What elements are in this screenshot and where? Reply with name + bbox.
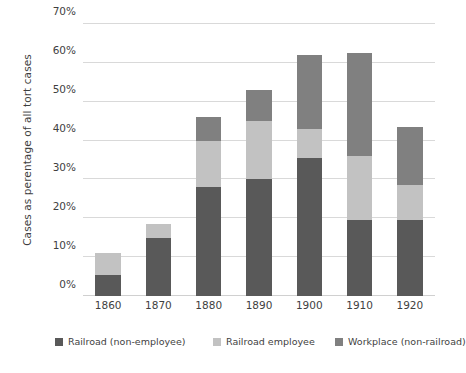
x-axis-tick-label: 1860 [95, 299, 122, 311]
legend-swatch-icon [213, 338, 221, 346]
bar-segment[interactable] [246, 90, 271, 121]
bar-segment[interactable] [347, 156, 372, 220]
bar-segment[interactable] [246, 179, 271, 296]
bar-segment[interactable] [146, 224, 171, 238]
bar-segment[interactable] [297, 129, 322, 158]
bar-segment[interactable] [146, 238, 171, 296]
chart-legend: Railroad (non-employee)Railroad employee… [55, 337, 435, 353]
y-axis-tick-label: 50% [53, 83, 76, 95]
bar-segment[interactable] [95, 275, 120, 296]
bar-segment[interactable] [297, 158, 322, 296]
bar-segment[interactable] [297, 55, 322, 129]
bar-stack[interactable] [146, 224, 171, 296]
legend-swatch-icon [55, 338, 63, 346]
bar-segment[interactable] [196, 117, 221, 140]
bar-group[interactable] [95, 24, 120, 296]
x-axis-tick-labels: 1860187018801890190019101920 [83, 299, 435, 317]
bar-segment[interactable] [246, 121, 271, 179]
y-axis-tick-label: 30% [53, 161, 76, 173]
legend-item[interactable]: Railroad employee [213, 337, 315, 347]
bar-segment[interactable] [196, 141, 221, 188]
bar-stack[interactable] [95, 252, 120, 296]
x-axis-tick-label: 1910 [346, 299, 373, 311]
bar-segment[interactable] [196, 187, 221, 296]
x-axis-tick-label: 1920 [396, 299, 423, 311]
y-axis-title-text: Cases as perentage of all tort cases [21, 54, 33, 246]
bar-segment[interactable] [95, 253, 120, 275]
x-axis-tick-label: 1870 [145, 299, 172, 311]
bar-group[interactable] [397, 24, 422, 296]
legend-item[interactable]: Railroad (non-employee) [55, 337, 185, 347]
bar-segment[interactable] [347, 53, 372, 156]
y-axis-tick-label: 20% [53, 200, 76, 212]
y-axis-tick-label: 10% [53, 239, 76, 251]
y-axis-tick-label: 0% [59, 278, 76, 290]
bar-segment[interactable] [397, 185, 422, 220]
legend-label: Railroad employee [226, 337, 315, 347]
bars-layer [83, 24, 435, 296]
legend-swatch-icon [335, 338, 343, 346]
x-axis-tick-label: 1880 [195, 299, 222, 311]
x-axis-tick-label: 1900 [296, 299, 323, 311]
bar-group[interactable] [146, 24, 171, 296]
y-axis-title: Cases as perentage of all tort cases [14, 0, 40, 300]
bar-segment[interactable] [397, 220, 422, 296]
bar-group[interactable] [297, 24, 322, 296]
bar-stack[interactable] [297, 55, 322, 296]
legend-label: Workplace (non-railroad) [348, 337, 466, 347]
bar-segment[interactable] [347, 220, 372, 296]
y-axis-tick-label: 60% [53, 44, 76, 56]
bar-group[interactable] [347, 24, 372, 296]
bar-stack[interactable] [347, 53, 372, 296]
legend-item[interactable]: Workplace (non-railroad) [335, 337, 466, 347]
bar-segment[interactable] [397, 127, 422, 185]
bar-group[interactable] [196, 24, 221, 296]
y-axis-tick-label: 70% [53, 5, 76, 17]
legend-label: Railroad (non-employee) [68, 337, 185, 347]
bar-stack[interactable] [397, 127, 422, 296]
bar-stack[interactable] [196, 117, 221, 296]
bar-group[interactable] [246, 24, 271, 296]
bar-stack[interactable] [246, 90, 271, 296]
x-axis-tick-label: 1890 [246, 299, 273, 311]
plot-area: 0%10%20%30%40%50%60%70% [83, 24, 435, 296]
y-axis-tick-label: 40% [53, 122, 76, 134]
